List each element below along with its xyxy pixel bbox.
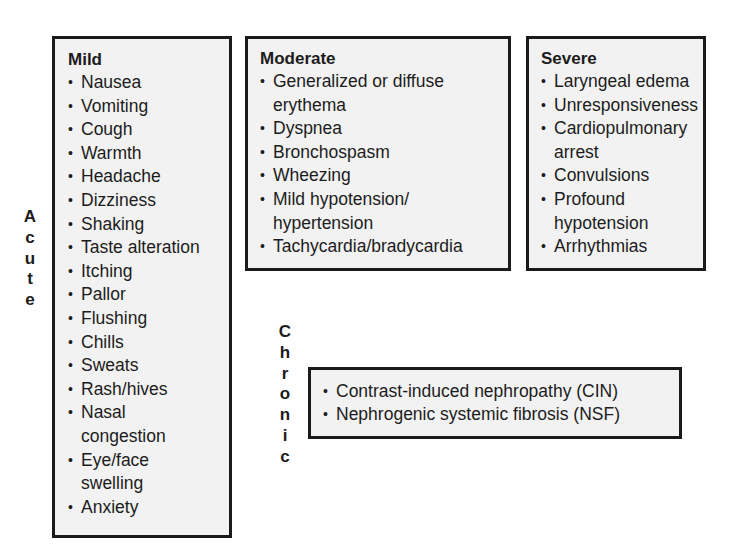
severe-reactions-box: Severe •Laryngeal edema •Unresponsivenes… <box>526 36 706 271</box>
list-item: •Flushing <box>68 307 229 331</box>
item-text: Flushing <box>81 308 147 328</box>
mild-title: Mild <box>68 49 229 71</box>
chronic-letter: o <box>275 384 295 405</box>
chronic-letter: C <box>275 322 295 343</box>
item-text: Nasal congestion <box>81 402 166 446</box>
bullet-icon: • <box>260 70 265 94</box>
bullet-icon: • <box>541 94 546 118</box>
item-text: Contrast-induced nephropathy (CIN) <box>336 381 618 401</box>
list-item: •Cardiopulmonary arrest <box>541 117 709 164</box>
list-item: •Pallor <box>68 283 229 307</box>
bullet-icon: • <box>260 164 265 188</box>
chronic-reactions-box: •Contrast-induced nephropathy (CIN) •Nep… <box>308 367 682 439</box>
bullet-icon: • <box>68 95 73 119</box>
item-text: Bronchospasm <box>273 142 390 162</box>
item-text: Headache <box>81 166 161 186</box>
item-text: Mild hypotension/ hypertension <box>273 189 409 233</box>
item-text: Pallor <box>81 284 126 304</box>
chronic-letter: c <box>275 447 295 468</box>
bullet-icon: • <box>68 260 73 284</box>
list-item: •Sweats <box>68 354 229 378</box>
bullet-icon: • <box>68 354 73 378</box>
item-text: Nausea <box>81 72 141 92</box>
item-text: Vomiting <box>81 96 148 116</box>
bullet-icon: • <box>68 213 73 237</box>
bullet-icon: • <box>68 307 73 331</box>
item-text: Nephrogenic systemic fibrosis (NSF) <box>336 404 620 424</box>
list-item: •Arrhythmias <box>541 235 703 259</box>
list-item: •Mild hypotension/ hypertension <box>260 188 448 235</box>
list-item: •Dyspnea <box>260 117 508 141</box>
bullet-icon: • <box>68 378 73 402</box>
bullet-icon: • <box>68 189 73 213</box>
acute-letter: A <box>20 207 40 228</box>
list-item: •Convulsions <box>541 164 703 188</box>
bullet-icon: • <box>541 70 546 94</box>
bullet-icon: • <box>68 449 73 473</box>
list-item: •Laryngeal edema <box>541 70 703 94</box>
list-item: •Headache <box>68 165 229 189</box>
acute-letter: e <box>20 290 40 311</box>
moderate-list: •Generalized or diffuse erythema •Dyspne… <box>260 70 508 259</box>
bullet-icon: • <box>68 496 73 520</box>
bullet-icon: • <box>323 380 328 403</box>
chronic-letter: i <box>275 426 295 447</box>
item-text: Cardiopulmonary arrest <box>554 118 687 162</box>
acute-letter: u <box>20 249 40 270</box>
chronic-letter: n <box>275 405 295 426</box>
bullet-icon: • <box>68 401 73 425</box>
item-text: Shaking <box>81 214 144 234</box>
bullet-icon: • <box>68 142 73 166</box>
bullet-icon: • <box>68 283 73 307</box>
chronic-letter: h <box>275 343 295 364</box>
bullet-icon: • <box>68 71 73 95</box>
item-text: Profound hypotension <box>554 189 648 233</box>
bullet-icon: • <box>68 165 73 189</box>
mild-reactions-box: Mild •Nausea •Vomiting •Cough •Warmth •H… <box>52 36 232 538</box>
list-item: •Dizziness <box>68 189 229 213</box>
list-item: •Wheezing <box>260 164 508 188</box>
severe-title: Severe <box>541 48 703 70</box>
item-text: Itching <box>81 261 133 281</box>
bullet-icon: • <box>541 235 546 259</box>
item-text: Unresponsiveness <box>554 95 698 115</box>
item-text: Wheezing <box>273 165 351 185</box>
acute-letter: c <box>20 228 40 249</box>
severe-list: •Laryngeal edema •Unresponsiveness •Card… <box>541 70 703 259</box>
list-item: •Nasal congestion <box>68 401 201 448</box>
acute-label: A c u t e <box>20 207 40 311</box>
bullet-icon: • <box>260 235 265 259</box>
list-item: •Anxiety <box>68 496 229 520</box>
mild-list: •Nausea •Vomiting •Cough •Warmth •Headac… <box>68 71 229 519</box>
bullet-icon: • <box>68 331 73 355</box>
item-text: Taste alteration <box>81 237 200 257</box>
item-text: Arrhythmias <box>554 236 647 256</box>
item-text: Dizziness <box>81 190 156 210</box>
list-item: •Generalized or diffuse erythema <box>260 70 488 117</box>
bullet-icon: • <box>260 188 265 212</box>
moderate-title: Moderate <box>260 48 508 70</box>
bullet-icon: • <box>68 118 73 142</box>
chronic-list: •Contrast-induced nephropathy (CIN) •Nep… <box>323 380 679 426</box>
list-item: •Vomiting <box>68 95 229 119</box>
bullet-icon: • <box>541 164 546 188</box>
item-text: Sweats <box>81 355 138 375</box>
chronic-label: C h r o n i c <box>275 322 295 468</box>
bullet-icon: • <box>68 236 73 260</box>
item-text: Chills <box>81 332 124 352</box>
item-text: Rash/hives <box>81 379 168 399</box>
list-item: •Profound hypotension <box>541 188 674 235</box>
item-text: Warmth <box>81 143 142 163</box>
list-item: •Bronchospasm <box>260 141 508 165</box>
item-text: Eye/face swelling <box>81 450 149 494</box>
list-item: •Unresponsiveness <box>541 94 703 118</box>
item-text: Tachycardia/bradycardia <box>273 236 463 256</box>
bullet-icon: • <box>260 141 265 165</box>
list-item: •Eye/face swelling <box>68 449 191 496</box>
list-item: •Taste alteration <box>68 236 229 260</box>
moderate-reactions-box: Moderate •Generalized or diffuse erythem… <box>245 36 511 271</box>
item-text: Laryngeal edema <box>554 71 689 91</box>
item-text: Anxiety <box>81 497 138 517</box>
bullet-icon: • <box>260 117 265 141</box>
list-item: •Itching <box>68 260 229 284</box>
